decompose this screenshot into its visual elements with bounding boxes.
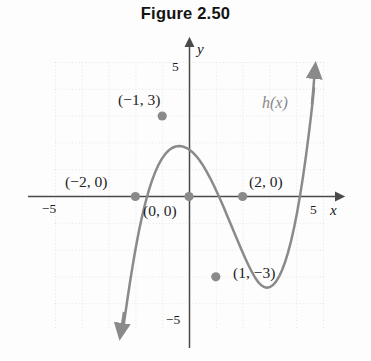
- label-point-minus1-3: (−1, 3): [118, 92, 160, 108]
- point-0-0: [184, 192, 193, 201]
- figure-page: Figure 2.50: [0, 0, 371, 361]
- point-2-0: [238, 192, 247, 201]
- label-point-minus2-0: (−2, 0): [65, 174, 107, 190]
- x-tick-minus5: −5: [42, 202, 56, 216]
- y-axis-label: y: [197, 42, 204, 57]
- x-axis-label: x: [330, 203, 337, 218]
- point-minus2-0: [131, 192, 140, 201]
- y-tick-5: 5: [172, 60, 179, 74]
- plot-area: y x −5 5 5 −5 (−1, 3) (−2, 0) (0, 0) (2,…: [0, 0, 371, 361]
- label-point-2-0: (2, 0): [249, 174, 283, 190]
- function-label: h(x): [262, 95, 288, 111]
- label-point-1-minus3: (1, −3): [233, 265, 275, 281]
- x-tick-5: 5: [310, 203, 317, 217]
- graph-canvas: [0, 0, 371, 361]
- label-point-0-0: (0, 0): [143, 203, 177, 219]
- point-1-minus3: [211, 272, 220, 281]
- y-tick-minus5: −5: [166, 313, 180, 327]
- point-minus1-3: [158, 111, 167, 120]
